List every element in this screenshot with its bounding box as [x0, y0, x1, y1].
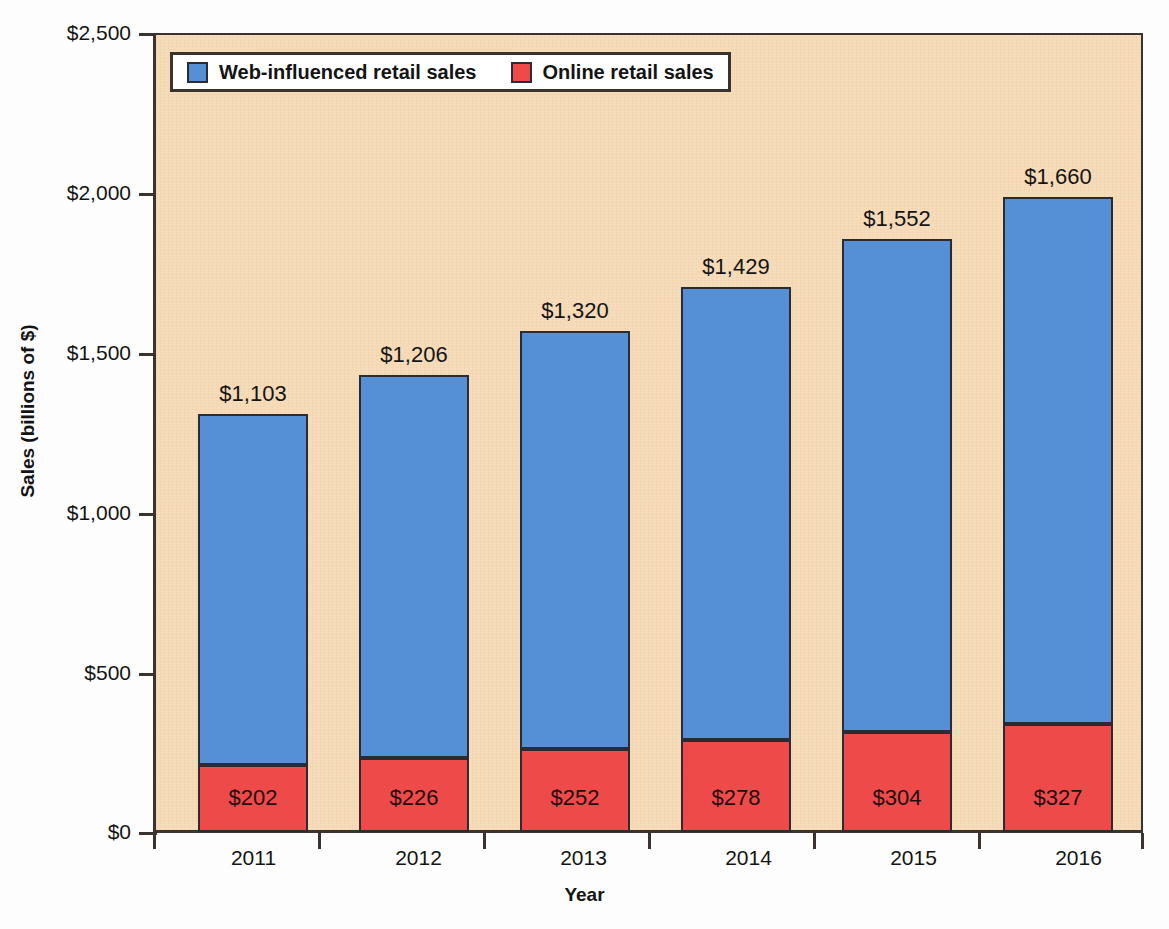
x-tick-label-2014: 2014 — [666, 846, 831, 870]
bar-segment-web-2015[interactable] — [842, 239, 952, 732]
legend-item-web-influenced[interactable]: Web-influenced retail sales — [187, 61, 477, 84]
x-tick-label-2013: 2013 — [501, 846, 666, 870]
legend-item-online[interactable]: Online retail sales — [511, 61, 714, 84]
chart-legend: Web-influenced retail sales Online retai… — [170, 52, 731, 92]
x-tick-label-2011: 2011 — [171, 846, 336, 870]
y-tick-label-0: $0 — [108, 820, 131, 844]
bar-segment-web-2014[interactable] — [681, 287, 791, 740]
bar-segment-web-2013[interactable] — [520, 331, 630, 749]
legend-swatch-icon-online — [511, 62, 532, 83]
bar-total-label-2016: $1,660 — [958, 164, 1158, 190]
bar-total-label-2014: $1,429 — [636, 254, 836, 280]
bar-total-label-2012: $1,206 — [314, 342, 514, 368]
x-tick-label-2016: 2016 — [996, 846, 1161, 870]
legend-label-online: Online retail sales — [543, 61, 714, 84]
bar-segment-web-2012[interactable] — [359, 375, 469, 758]
bar-segment-web-2016[interactable] — [1003, 197, 1113, 724]
bar-total-label-2015: $1,552 — [797, 206, 997, 232]
bar-segment-online-2016[interactable] — [1003, 724, 1113, 832]
y-axis-title: Sales (billions of $) — [17, 261, 39, 561]
x-tick-0 — [153, 833, 156, 849]
bar-segment-online-2015[interactable] — [842, 732, 952, 832]
y-tick-label-2000: $2,000 — [67, 181, 131, 205]
legend-label-web: Web-influenced retail sales — [219, 61, 477, 84]
x-axis-title: Year — [0, 884, 1169, 906]
bar-total-label-2011: $1,103 — [153, 381, 353, 407]
y-tick-label-1000: $1,000 — [67, 501, 131, 525]
bar-segment-web-2011[interactable] — [198, 414, 308, 765]
x-tick-label-2012: 2012 — [336, 846, 501, 870]
bar-total-label-2013: $1,320 — [475, 298, 675, 324]
x-tick-label-2015: 2015 — [831, 846, 996, 870]
y-tick-label-1500: $1,500 — [67, 341, 131, 365]
legend-swatch-icon-web — [187, 62, 208, 83]
y-tick-label-500: $500 — [84, 661, 131, 685]
bar-chart: Sales (billions of $) $2,500 $2,000 $1,5… — [0, 0, 1169, 929]
bar-online-label-2016: $327 — [958, 785, 1158, 811]
y-tick-label-2500: $2,500 — [67, 21, 131, 45]
